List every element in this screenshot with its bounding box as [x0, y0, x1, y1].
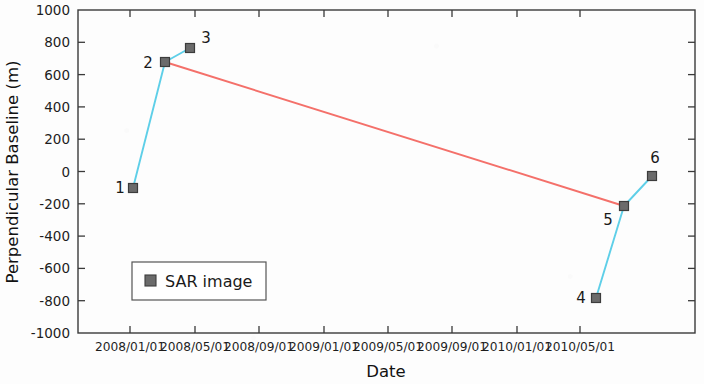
- sar-image-point-label: 2: [143, 54, 153, 72]
- y-axis-tick-label: 400: [44, 99, 70, 115]
- y-axis-tick-label: -1000: [31, 325, 70, 341]
- y-axis-tick-label: 800: [44, 34, 70, 50]
- chart-container: 10008006004002000-200-400-600-800-1000 2…: [0, 0, 704, 384]
- x-axis-title: Date: [366, 362, 405, 381]
- sar-image-marker[interactable]: [186, 44, 195, 53]
- sar-image-marker[interactable]: [129, 184, 138, 193]
- y-axis-tick-label: 0: [61, 164, 70, 180]
- sar-image-marker[interactable]: [592, 294, 601, 303]
- sar-image-point-label: 5: [603, 211, 613, 229]
- sar-image-point-label: 6: [650, 149, 660, 167]
- sar-image-marker[interactable]: [620, 202, 629, 211]
- y-axis-title: Perpendicular Baseline (m): [3, 61, 22, 284]
- plot-background: [0, 0, 704, 384]
- legend: SAR image: [132, 262, 266, 300]
- y-axis-tick-label: -400: [39, 228, 70, 244]
- legend-label-sar-image: SAR image: [165, 272, 252, 291]
- x-axis-tick-label: 2009/01/01: [289, 340, 359, 354]
- legend-marker-icon: [145, 275, 156, 286]
- y-axis-tick-label: 200: [44, 131, 70, 147]
- x-axis-tick-label: 2010/01/01: [482, 340, 552, 354]
- y-axis-tick-label: -200: [39, 196, 70, 212]
- baseline-plot: 10008006004002000-200-400-600-800-1000 2…: [0, 0, 704, 384]
- x-axis-tick-label: 2008/01/01: [95, 340, 165, 354]
- sar-image-point-label: 4: [576, 289, 586, 307]
- x-axis-tick-label: 2009/09/01: [417, 340, 487, 354]
- y-axis-tick-label: -800: [39, 293, 70, 309]
- sar-image-marker[interactable]: [161, 58, 170, 67]
- sar-image-point-label: 3: [201, 29, 211, 47]
- x-axis-tick-label: 2009/05/01: [353, 340, 423, 354]
- x-axis-tick-label: 2010/05/01: [545, 340, 615, 354]
- sar-image-marker[interactable]: [648, 172, 657, 181]
- sar-image-point-label: 1: [115, 179, 125, 197]
- y-axis-tick-label: 1000: [36, 2, 70, 18]
- x-axis-tick-label: 2008/09/01: [224, 340, 294, 354]
- y-axis-tick-label: 600: [44, 67, 70, 83]
- y-axis-tick-label: -600: [39, 260, 70, 276]
- x-axis-tick-label: 2008/05/01: [160, 340, 230, 354]
